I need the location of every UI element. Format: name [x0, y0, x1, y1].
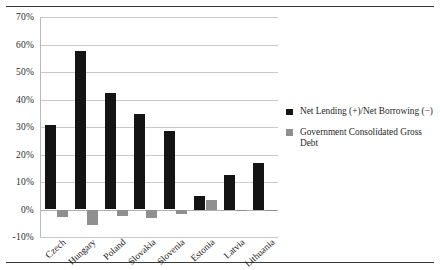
y-axis-tick-label: 0%	[21, 205, 34, 215]
legend-swatch-icon	[286, 129, 293, 136]
y-axis-tick-label: 40%	[16, 95, 34, 105]
y-axis-tick-label: 60%	[16, 40, 34, 50]
bar	[105, 93, 116, 210]
figure-top-rule	[6, 6, 434, 7]
plot-area	[40, 17, 278, 237]
bar-group	[43, 17, 73, 237]
y-axis-tick-label: 70%	[16, 12, 34, 22]
bar	[146, 210, 157, 218]
x-axis-tick-label: Estonia	[189, 237, 217, 264]
bar	[45, 125, 56, 210]
y-axis-labels: 70%60%50%40%30%20%10%0%-10%	[0, 10, 38, 262]
bar-group	[132, 17, 162, 237]
bar	[75, 51, 86, 209]
bar	[57, 210, 68, 218]
bar-group	[192, 17, 222, 237]
bar	[253, 163, 264, 210]
chart-figure: 70%60%50%40%30%20%10%0%-10% CzechHungary…	[0, 0, 440, 270]
chart-canvas: 70%60%50%40%30%20%10%0%-10% CzechHungary…	[0, 10, 440, 262]
x-axis-tick-label: Poland	[101, 237, 127, 262]
bar	[134, 114, 145, 210]
y-axis-tick-label: 20%	[16, 150, 34, 160]
legend-label: Net Lending (+)/Net Borrowing (−)	[300, 106, 433, 116]
bar-group	[73, 17, 103, 237]
legend-label: Government Consolidated Gross Debt	[300, 127, 422, 149]
x-axis-tick-label: Lithuania	[243, 237, 277, 269]
bar	[236, 210, 247, 212]
bar-series-container	[40, 17, 278, 237]
legend-item: Net Lending (+)/Net Borrowing (−)	[286, 106, 436, 118]
bar	[164, 131, 175, 209]
bar	[194, 196, 205, 210]
y-axis-tick-label: 50%	[16, 67, 34, 77]
bar	[206, 200, 217, 210]
x-axis-tick-label: Hungary	[66, 237, 97, 267]
bar	[117, 210, 128, 217]
legend-swatch-icon	[286, 109, 293, 116]
bar-group	[222, 17, 252, 237]
bar	[176, 210, 187, 214]
chart-legend: Net Lending (+)/Net Borrowing (−)Governm…	[286, 106, 436, 159]
x-axis-labels: CzechHungaryPolandSlovakiaSloveniaEstoni…	[40, 237, 278, 270]
x-axis-tick-label: Latvia	[222, 237, 247, 261]
y-axis-tick-label: 10%	[16, 177, 34, 187]
bar-group	[251, 17, 281, 237]
x-axis-tick-label: Slovenia	[156, 237, 187, 267]
y-axis-tick-label: 30%	[16, 122, 34, 132]
bar-group	[162, 17, 192, 237]
bar	[224, 175, 235, 209]
bar	[265, 210, 276, 211]
bar	[87, 210, 98, 225]
y-axis-line	[40, 17, 41, 237]
x-axis-tick-label: Czech	[44, 237, 68, 260]
legend-item: Government Consolidated Gross Debt	[286, 127, 436, 150]
y-axis-tick-label: -10%	[13, 232, 34, 242]
x-axis-tick-label: Slovakia	[126, 237, 157, 267]
bar-group	[103, 17, 133, 237]
